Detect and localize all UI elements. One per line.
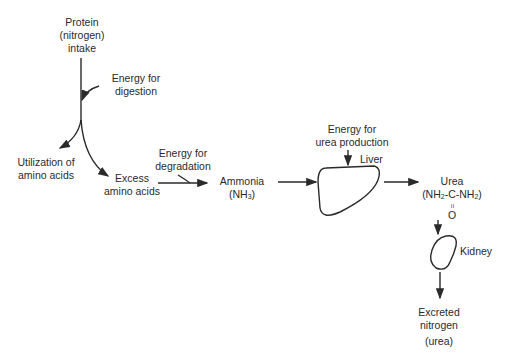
ammonia-formula: (NH3) xyxy=(214,188,270,203)
urea-production-line: urea production xyxy=(312,136,392,149)
digestion-energy-arrow xyxy=(82,86,99,100)
excess-line: Excess xyxy=(102,172,162,185)
protein-line: Protein xyxy=(58,16,106,29)
double-bond: = xyxy=(449,166,455,246)
energy-digestion-label: Energy for digestion xyxy=(106,72,166,98)
excess-arrow xyxy=(81,120,108,176)
degradation-line: degradation xyxy=(152,160,214,173)
excess-amino-acids-label: Excess amino acids xyxy=(102,172,162,198)
amino-acids-line: amino acids xyxy=(12,169,80,182)
nitrogen-line: (nitrogen) xyxy=(58,29,106,42)
energy-for-line: Energy for xyxy=(152,147,214,160)
ammonia-label: Ammonia (NH3) xyxy=(214,175,270,203)
utilization-line: Utilization of xyxy=(12,156,80,169)
urea-label: Urea (NH2-C-NH2) = O xyxy=(412,175,492,222)
liver-label: Liver xyxy=(360,153,383,166)
nitrogen-line: nitrogen xyxy=(408,319,470,332)
amino-acids-line: amino acids xyxy=(102,185,162,198)
degradation-energy-line xyxy=(178,175,190,183)
intake-line: intake xyxy=(58,42,106,55)
utilization-arrow xyxy=(60,120,81,148)
energy-urea-label: Energy for urea production xyxy=(312,123,392,149)
liver-shape xyxy=(318,166,379,215)
ammonia-line: Ammonia xyxy=(214,175,270,188)
energy-degradation-label: Energy for degradation xyxy=(152,147,214,173)
utilization-label: Utilization of amino acids xyxy=(12,156,80,182)
energy-for-line: Energy for xyxy=(106,72,166,85)
protein-intake-label: Protein (nitrogen) intake xyxy=(58,16,106,55)
urea-line: (urea) xyxy=(408,335,470,348)
kidney-label: Kidney xyxy=(460,245,492,258)
excreted-nitrogen-label: Excreted nitrogen (urea) xyxy=(408,306,470,348)
digestion-line: digestion xyxy=(106,85,166,98)
excreted-line: Excreted xyxy=(408,306,470,319)
energy-for-line: Energy for xyxy=(312,123,392,136)
